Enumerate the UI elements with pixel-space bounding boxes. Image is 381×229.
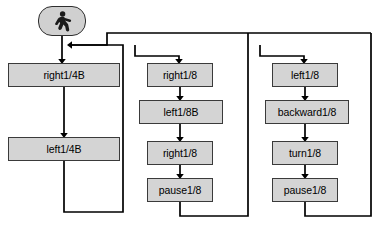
walking-person-icon	[53, 11, 72, 32]
node-left1-8[interactable]: left1/8	[272, 63, 338, 87]
edge-top-rail	[70, 33, 371, 45]
node-label: right1/8	[163, 148, 197, 159]
node-middle-pause1-8[interactable]: pause1/8	[147, 178, 213, 202]
edge-join-to-right-left1-8	[260, 45, 304, 61]
edge-join-to-middle-right1-8	[135, 45, 179, 61]
node-middle-right1-8-bottom[interactable]: right1/8	[147, 141, 213, 165]
node-middle-right1-8-top[interactable]: right1/8	[147, 63, 213, 87]
node-right-pause1-8[interactable]: pause1/8	[272, 178, 338, 202]
start-node[interactable]	[38, 6, 86, 36]
node-label: left1/8	[291, 70, 319, 81]
flow-diagram: right1/4B left1/4B right1/8 left1/8B rig…	[0, 0, 381, 229]
node-label: right1/8	[163, 70, 197, 81]
node-label: turn1/8	[289, 148, 321, 159]
node-label: left1/8B	[164, 107, 199, 118]
node-left1-4b[interactable]: left1/4B	[8, 137, 120, 161]
node-backward1-8[interactable]: backward1/8	[265, 100, 349, 124]
node-label: left1/4B	[47, 144, 82, 155]
node-turn1-8[interactable]: turn1/8	[272, 141, 338, 165]
node-label: backward1/8	[278, 107, 336, 118]
node-label: right1/4B	[43, 70, 84, 81]
node-label: pause1/8	[159, 185, 201, 196]
node-label: pause1/8	[284, 185, 326, 196]
node-left1-8b[interactable]: left1/8B	[139, 100, 223, 124]
node-right1-4b[interactable]: right1/4B	[8, 63, 120, 87]
